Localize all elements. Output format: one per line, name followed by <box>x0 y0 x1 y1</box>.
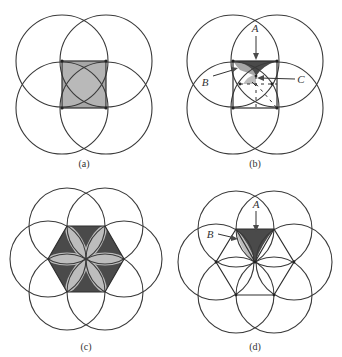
panel-a: (a) <box>16 15 152 170</box>
caption-a: (a) <box>78 158 89 170</box>
label-b: B <box>207 228 214 240</box>
petal-shading <box>16 15 152 154</box>
panel-b: A B C (b) <box>187 15 323 170</box>
label-c: C <box>297 73 305 85</box>
geometry-figure: (a) A B C (b) <box>0 0 342 357</box>
caption-c: (c) <box>80 341 91 353</box>
caption-d: (d) <box>249 341 261 353</box>
panel-d: A B (d) <box>178 191 332 353</box>
panel-c: (c) <box>10 188 162 353</box>
label-a: A <box>251 22 259 34</box>
caption-b: (b) <box>249 158 261 170</box>
label-b: B <box>202 76 209 88</box>
label-a: A <box>252 198 260 210</box>
